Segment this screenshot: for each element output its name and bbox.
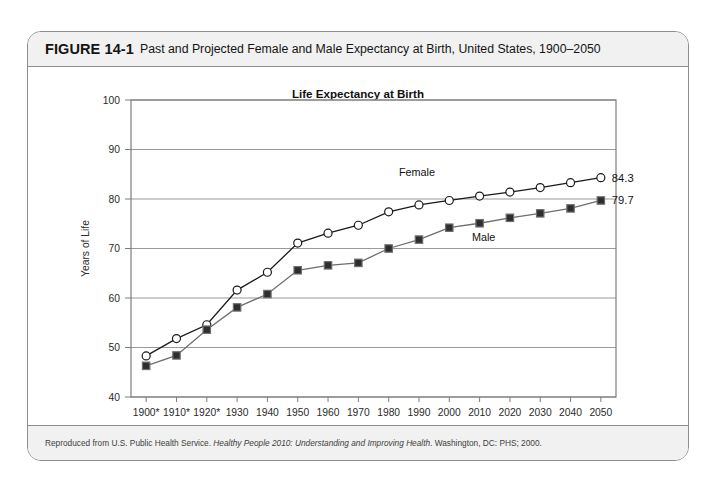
- y-tick-label-90: 90: [109, 144, 121, 155]
- source-prefix: Reproduced from U.S. Public Health Servi…: [45, 438, 213, 448]
- marker-female-2010: [476, 192, 484, 200]
- marker-male-1900*: [142, 362, 149, 369]
- end-value-label-female: 84.3: [612, 172, 634, 184]
- x-tick-label-12: 2020: [498, 407, 521, 418]
- marker-female-1970: [354, 221, 362, 229]
- x-tick-label-2: 1920*: [193, 407, 220, 418]
- y-tick-label-40: 40: [109, 392, 121, 403]
- x-tick-label-7: 1970: [347, 407, 370, 418]
- source-citation: Reproduced from U.S. Public Health Servi…: [45, 438, 542, 448]
- marker-male-1950: [294, 267, 301, 274]
- figure-caption: Past and Projected Female and Male Expec…: [140, 42, 601, 56]
- marker-female-2030: [536, 184, 544, 192]
- x-tick-label-4: 1940: [256, 407, 279, 418]
- life-expectancy-line-chart: 4050607080901001900*1910*1920*1930194019…: [28, 67, 689, 427]
- x-tick-label-15: 2050: [589, 407, 612, 418]
- marker-male-1940: [264, 290, 271, 297]
- marker-male-1910*: [173, 352, 180, 359]
- y-tick-label-50: 50: [109, 342, 121, 353]
- x-tick-label-8: 1980: [377, 407, 400, 418]
- marker-male-1970: [355, 259, 362, 266]
- marker-male-1960: [324, 262, 331, 269]
- marker-male-1930: [233, 304, 240, 311]
- marker-female-1980: [385, 208, 393, 216]
- x-tick-label-10: 2000: [438, 407, 461, 418]
- figure-header: FIGURE 14-1 Past and Projected Female an…: [28, 32, 688, 67]
- chart-region: Life Expectancy at Birth 405060708090100…: [28, 67, 688, 425]
- figure-card: FIGURE 14-1 Past and Projected Female an…: [27, 31, 689, 461]
- y-tick-label-80: 80: [109, 194, 121, 205]
- y-axis-title: Years of Life: [80, 220, 91, 277]
- x-tick-label-9: 1990: [408, 407, 431, 418]
- marker-female-2050: [597, 174, 605, 182]
- marker-male-1990: [415, 236, 422, 243]
- marker-male-2000: [446, 224, 453, 231]
- marker-female-1990: [415, 201, 423, 209]
- figure-number: FIGURE 14-1: [45, 41, 134, 57]
- source-suffix: . Washington, DC: PHS; 2000.: [430, 438, 542, 448]
- marker-female-1930: [233, 286, 241, 294]
- source-title: Healthy People 2010: Understanding and I…: [213, 438, 430, 448]
- marker-female-2020: [506, 188, 514, 196]
- series-annotation-female: Female: [399, 166, 435, 178]
- series-annotation-male: Male: [472, 231, 495, 243]
- marker-female-1910*: [172, 335, 180, 343]
- x-tick-label-1: 1910*: [163, 407, 190, 418]
- marker-male-2020: [506, 214, 513, 221]
- marker-male-2010: [476, 220, 483, 227]
- marker-male-1920*: [203, 326, 210, 333]
- series-line-female: [146, 178, 601, 356]
- x-tick-label-3: 1930: [226, 407, 249, 418]
- marker-male-2050: [597, 197, 604, 204]
- marker-male-2030: [537, 210, 544, 217]
- marker-female-2000: [445, 196, 453, 204]
- y-tick-label-70: 70: [109, 243, 121, 254]
- y-tick-label-100: 100: [103, 95, 120, 106]
- marker-female-1900*: [142, 352, 150, 360]
- x-tick-label-5: 1950: [286, 407, 309, 418]
- y-tick-label-60: 60: [109, 293, 121, 304]
- end-value-label-male: 79.7: [612, 194, 634, 206]
- x-tick-label-11: 2010: [468, 407, 491, 418]
- series-line-male: [146, 200, 601, 365]
- marker-male-2040: [567, 205, 574, 212]
- x-tick-label-13: 2030: [529, 407, 552, 418]
- x-tick-label-0: 1900*: [133, 407, 160, 418]
- marker-female-1940: [263, 268, 271, 276]
- x-tick-label-14: 2040: [559, 407, 582, 418]
- marker-female-1950: [294, 239, 302, 247]
- x-tick-label-6: 1960: [317, 407, 340, 418]
- marker-female-2040: [567, 179, 575, 187]
- marker-female-1960: [324, 229, 332, 237]
- figure-footer: Reproduced from U.S. Public Health Servi…: [28, 425, 688, 460]
- marker-male-1980: [385, 245, 392, 252]
